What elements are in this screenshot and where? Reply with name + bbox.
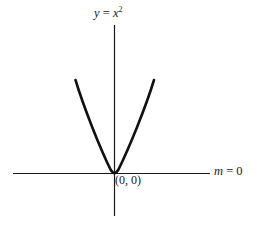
origin-point-label: (0, 0) — [115, 174, 141, 186]
plot-canvas — [0, 0, 258, 225]
curve-equals-sign: = — [100, 6, 113, 20]
slope-value: = 0 — [223, 164, 243, 178]
curve-equation-label: y = x2 — [94, 7, 122, 20]
curve-exponent: 2 — [118, 5, 122, 14]
parabola-figure: y = x2 (0, 0) m = 0 — [0, 0, 258, 225]
slope-variable: m — [214, 164, 223, 178]
x-axis-slope-label: m = 0 — [214, 165, 243, 178]
